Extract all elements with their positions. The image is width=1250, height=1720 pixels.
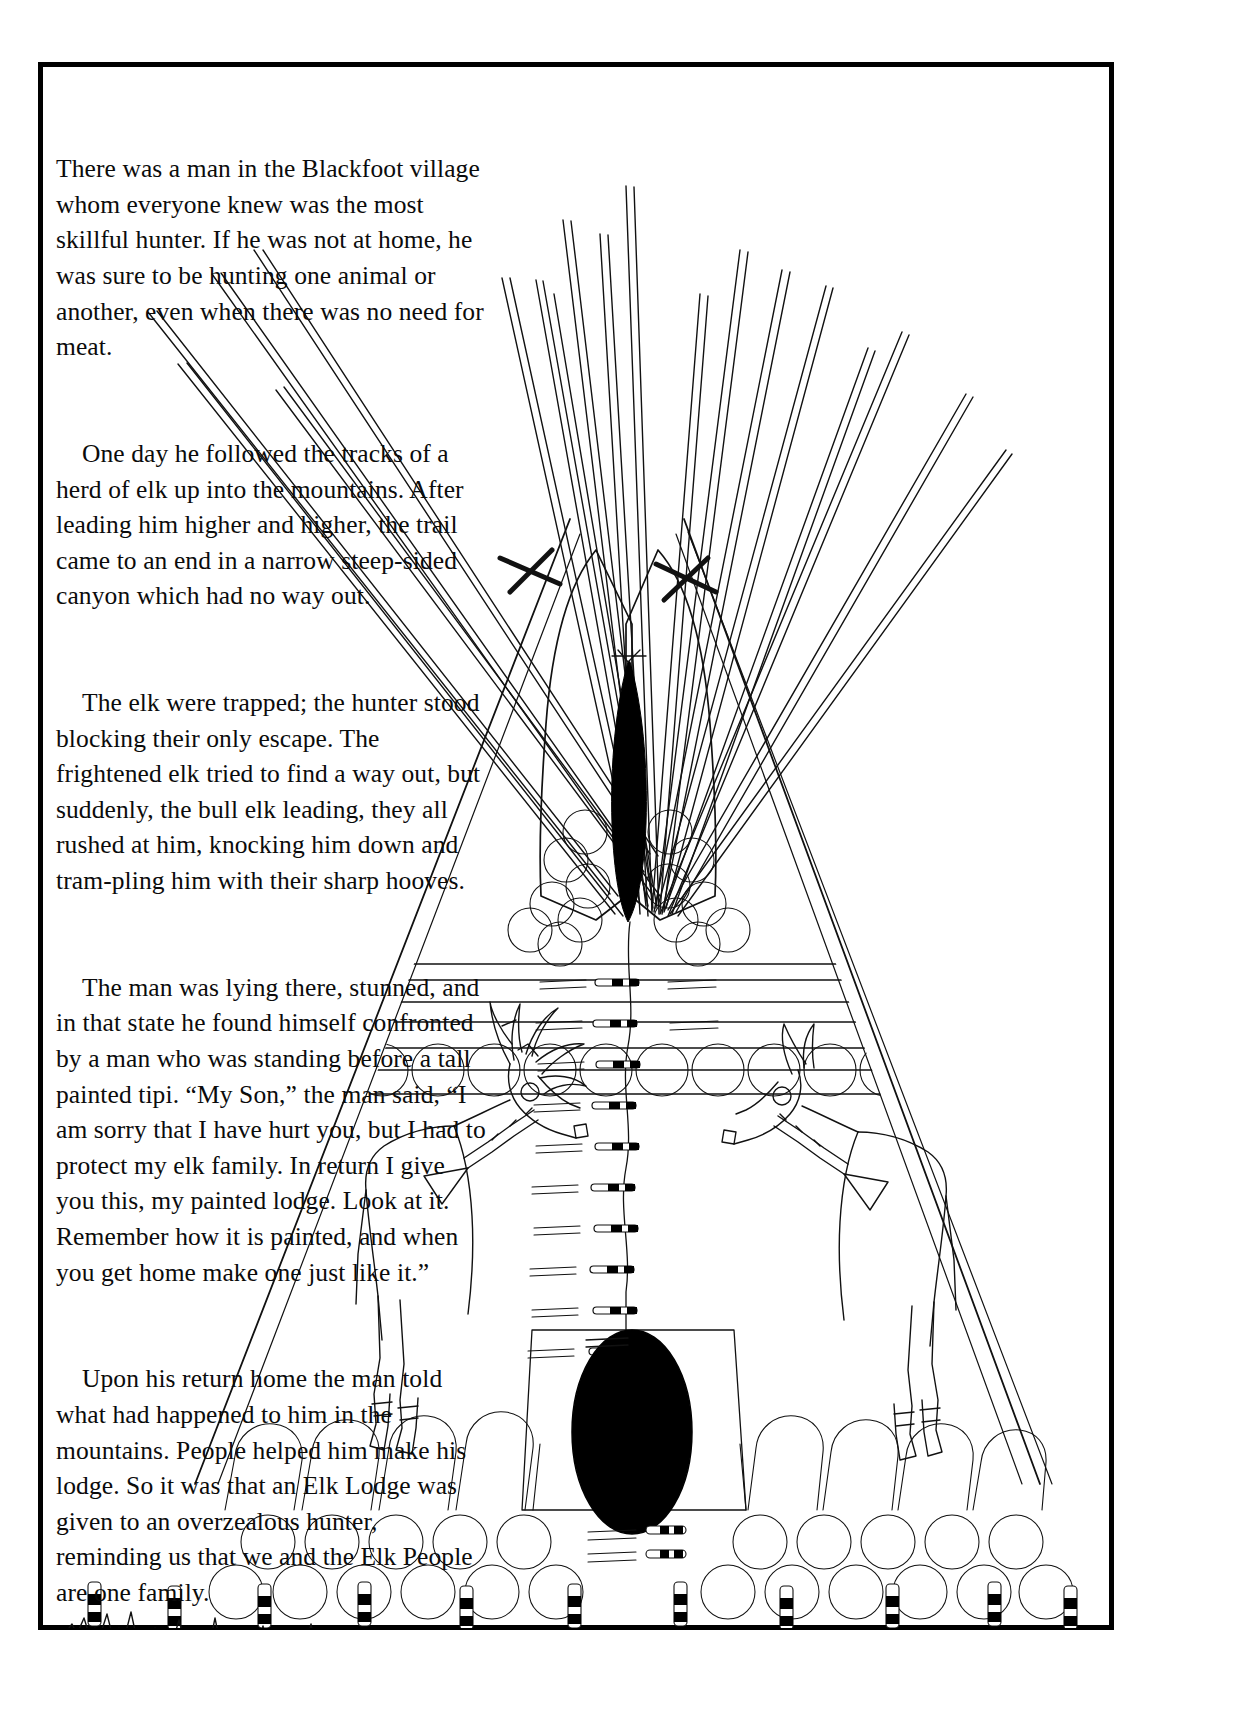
story-text: There was a man in the Blackfoot village… (56, 80, 488, 1682)
smoke-hole-icon (612, 650, 647, 922)
story-paragraph-3: The elk were trapped; the hunter stood b… (56, 685, 488, 899)
story-paragraph-5: Upon his return home the man told what h… (56, 1361, 488, 1610)
seam-tick-marks-icon (528, 980, 718, 1358)
story-paragraph-2: One day he followed the tracks of a herd… (56, 436, 488, 614)
book-page: There was a man in the Blackfoot village… (0, 0, 1250, 1720)
lacing-pins-icon (589, 979, 640, 1355)
story-paragraph-1: There was a man in the Blackfoot village… (56, 151, 488, 365)
story-paragraph-4: The man was lying there, stunned, and in… (56, 970, 488, 1290)
door-flap-icon (522, 1330, 746, 1534)
